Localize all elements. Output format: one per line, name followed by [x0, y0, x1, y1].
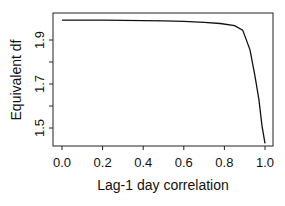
x-tick-label: 0.2: [94, 155, 112, 170]
x-tick-label: 1.0: [256, 155, 274, 170]
y-axis-ticks: 1.51.71.9: [32, 31, 53, 137]
x-axis-title: Lag-1 day correlation: [97, 177, 229, 193]
x-tick-label: 0.6: [175, 155, 193, 170]
y-axis-title: Equivalent df: [8, 39, 24, 120]
x-tick-label: 0.0: [53, 155, 71, 170]
line-chart: 0.00.20.40.60.81.0 1.51.71.9 Lag-1 day c…: [0, 0, 285, 206]
y-tick-label: 1.7: [32, 75, 47, 93]
data-line: [62, 20, 265, 143]
y-tick-label: 1.9: [32, 31, 47, 49]
plot-frame: [53, 13, 273, 146]
x-tick-label: 0.8: [215, 155, 233, 170]
x-axis-ticks: 0.00.20.40.60.81.0: [53, 146, 274, 170]
x-tick-label: 0.4: [134, 155, 152, 170]
y-tick-label: 1.5: [32, 119, 47, 137]
